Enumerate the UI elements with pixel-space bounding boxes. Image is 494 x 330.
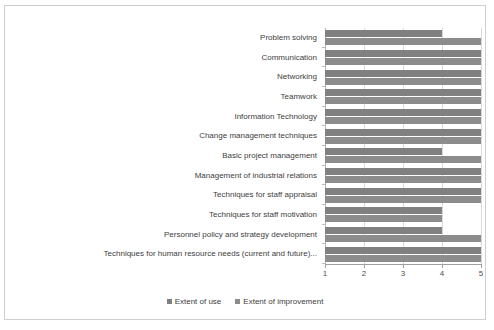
tick-mark-2	[364, 264, 365, 268]
x-tick-label: 2	[354, 269, 374, 278]
category-label: Basic project management	[17, 151, 317, 161]
bar-extent-of-improvement	[325, 137, 481, 144]
bar-extent-of-improvement	[325, 196, 481, 203]
x-tick-label: 4	[432, 269, 452, 278]
category-label: Teamwork	[17, 92, 317, 102]
x-tick-label: 5	[471, 269, 491, 278]
tick-mark-1	[325, 264, 326, 268]
category-label: Personnel policy and strategy developmen…	[17, 230, 317, 240]
bar-extent-of-use	[325, 89, 481, 96]
gridline-5	[481, 28, 482, 264]
category-label: Change management techniques	[17, 131, 317, 141]
bar-extent-of-improvement	[325, 117, 481, 124]
bar-group	[325, 225, 481, 245]
bar-extent-of-improvement	[325, 176, 481, 183]
bar-extent-of-use	[325, 30, 442, 37]
bar-extent-of-use	[325, 70, 481, 77]
tick-mark-5	[481, 264, 482, 268]
category-axis-labels: Problem solvingCommunicationNetworkingTe…	[15, 28, 321, 264]
category-label: Techniques for human resource needs (cur…	[17, 249, 317, 259]
tick-mark-3	[403, 264, 404, 268]
bar-group	[325, 87, 481, 107]
bar-extent-of-use	[325, 168, 481, 175]
category-label: Techniques for staff motivation	[17, 210, 317, 220]
bar-extent-of-use	[325, 50, 481, 57]
legend-label: Extent of improvement	[243, 297, 323, 306]
tick-mark-4	[442, 264, 443, 268]
category-label: Techniques for staff appraisal	[17, 190, 317, 200]
category-label: Information Technology	[17, 112, 317, 122]
bar-extent-of-use	[325, 227, 442, 234]
legend-label: Extent of use	[175, 297, 222, 306]
bar-extent-of-improvement	[325, 58, 481, 65]
x-tick-label: 3	[393, 269, 413, 278]
bar-group	[325, 28, 481, 48]
chart-legend: Extent of useExtent of improvement	[5, 297, 485, 306]
bar-group	[325, 126, 481, 146]
category-label: Networking	[17, 72, 317, 82]
bar-extent-of-use	[325, 207, 442, 214]
bar-group	[325, 67, 481, 87]
bar-extent-of-improvement	[325, 97, 481, 104]
legend-item[interactable]: Extent of use	[167, 297, 222, 306]
chart-frame: Problem solvingCommunicationNetworkingTe…	[4, 5, 486, 320]
legend-swatch-icon	[167, 299, 172, 304]
bar-group	[325, 48, 481, 68]
bar-group	[325, 205, 481, 225]
bar-group	[325, 107, 481, 127]
bar-extent-of-use	[325, 247, 481, 254]
bar-extent-of-improvement	[325, 255, 481, 262]
bar-extent-of-use	[325, 109, 481, 116]
legend-item[interactable]: Extent of improvement	[235, 297, 323, 306]
bar-extent-of-use	[325, 148, 442, 155]
bar-extent-of-improvement	[325, 38, 481, 45]
category-label: Management of industrial relations	[17, 171, 317, 181]
category-label: Communication	[17, 53, 317, 63]
bar-extent-of-improvement	[325, 156, 481, 163]
bar-group	[325, 244, 481, 264]
bar-extent-of-use	[325, 129, 481, 136]
bar-group	[325, 166, 481, 186]
category-label: Problem solving	[17, 33, 317, 43]
legend-swatch-icon	[235, 299, 240, 304]
bar-extent-of-use	[325, 188, 481, 195]
bar-group	[325, 185, 481, 205]
bar-extent-of-improvement	[325, 78, 481, 85]
bar-group	[325, 146, 481, 166]
bar-extent-of-improvement	[325, 215, 442, 222]
x-tick-label: 1	[315, 269, 335, 278]
bar-extent-of-improvement	[325, 235, 481, 242]
plot-area	[325, 28, 481, 264]
